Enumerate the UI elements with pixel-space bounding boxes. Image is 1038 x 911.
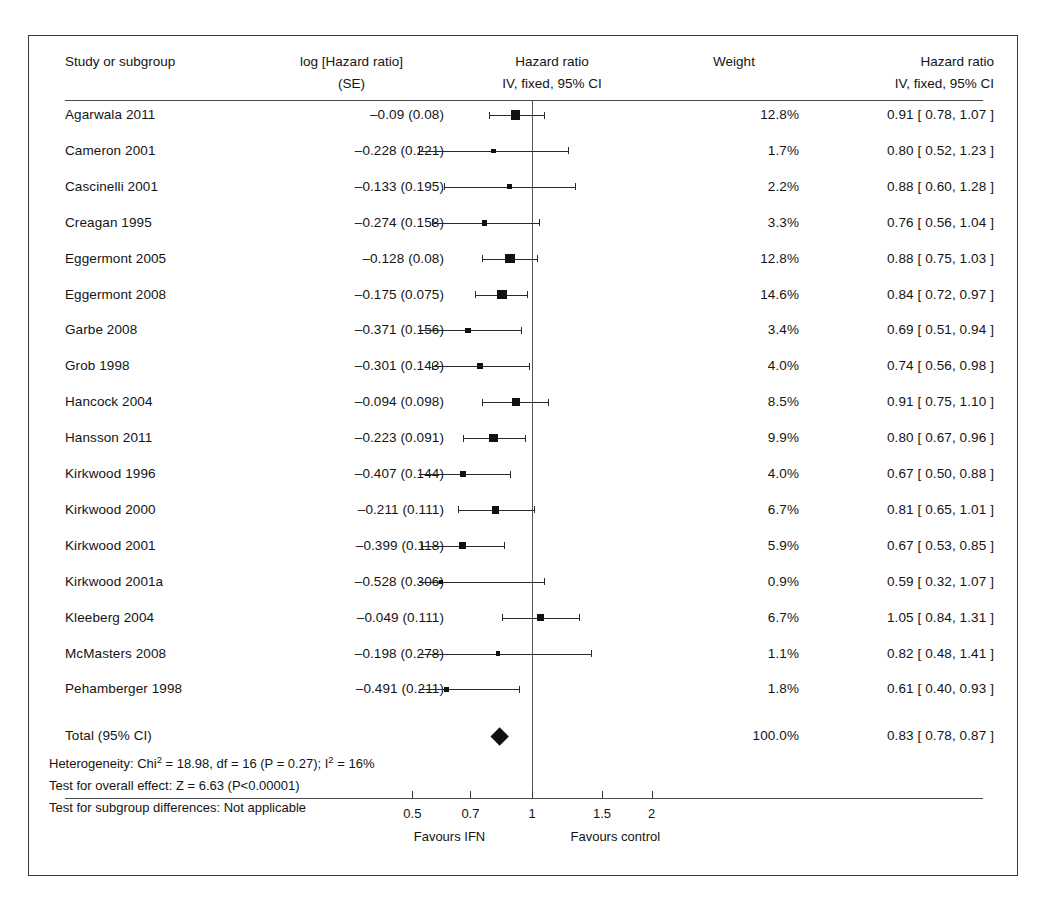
column-header-plot-hazard-ratio: Hazard ratio [447, 53, 657, 71]
study-label: Hancock 2004 [65, 394, 153, 410]
confidence-interval-line [444, 187, 575, 188]
ci-lower-cap [482, 255, 483, 262]
ci-upper-cap [537, 255, 538, 262]
study-label: Kirkwood 1996 [65, 466, 156, 482]
study-weight: 2.2% [669, 179, 799, 195]
log-hazard-se: –0.128 (0.08) [259, 251, 444, 267]
heterogeneity-text: Heterogeneity: Chi2 = 18.98, df = 16 (P … [49, 756, 374, 772]
study-label: Hansson 2011 [65, 430, 152, 446]
ci-lower-cap [458, 506, 459, 513]
confidence-interval-line [432, 223, 539, 224]
study-hazard-ratio: 0.88 [ 0.60, 1.28 ] [829, 179, 994, 195]
study-hazard-ratio: 0.81 [ 0.65, 1.01 ] [829, 502, 994, 518]
study-label: Kirkwood 2001a [65, 574, 163, 590]
effect-size-marker [460, 471, 466, 477]
axis-tick [602, 791, 603, 798]
log-hazard-se: –0.198 (0.278) [259, 646, 444, 662]
log-hazard-se: –0.528 (0.306) [259, 574, 444, 590]
effect-size-marker [459, 542, 466, 549]
ci-lower-cap [463, 435, 464, 442]
study-label: Eggermont 2005 [65, 251, 166, 267]
axis-baseline [65, 798, 983, 799]
ci-upper-cap [510, 471, 511, 478]
log-hazard-se: –0.133 (0.195) [259, 179, 444, 195]
study-weight: 3.4% [669, 322, 799, 338]
study-weight: 9.9% [669, 430, 799, 446]
study-weight: 6.7% [669, 610, 799, 626]
effect-size-marker [482, 220, 488, 226]
log-hazard-se: –0.223 (0.091) [259, 430, 444, 446]
study-label: Kleeberg 2004 [65, 610, 154, 626]
study-hazard-ratio: 0.59 [ 0.32, 1.07 ] [829, 574, 994, 590]
total-label: Total (95% CI) [65, 728, 152, 744]
ci-upper-cap [575, 183, 576, 190]
study-label: Kirkwood 2000 [65, 502, 156, 518]
effect-size-marker [489, 434, 497, 442]
axis-tick-label: 2 [648, 806, 655, 821]
study-label: Eggermont 2008 [65, 287, 166, 303]
confidence-interval-line [463, 438, 525, 439]
study-label: Cameron 2001 [65, 143, 156, 159]
confidence-interval-line [419, 654, 591, 655]
ci-lower-cap [475, 291, 476, 298]
ci-lower-cap [489, 112, 490, 119]
confidence-interval-line [458, 510, 534, 511]
study-hazard-ratio: 0.67 [ 0.53, 0.85 ] [829, 538, 994, 554]
study-hazard-ratio: 0.91 [ 0.78, 1.07 ] [829, 107, 994, 123]
effect-size-marker [491, 149, 496, 154]
header-divider [65, 100, 983, 101]
study-weight: 12.8% [669, 107, 799, 123]
ci-upper-cap [527, 291, 528, 298]
axis-tick [470, 791, 471, 798]
study-label: Grob 1998 [65, 358, 130, 374]
column-header-hazard-ratio: Hazard ratio [829, 53, 994, 71]
study-hazard-ratio: 0.61 [ 0.40, 0.93 ] [829, 681, 994, 697]
axis-tick [532, 791, 533, 798]
log-hazard-se: –0.228 (0.221) [259, 143, 444, 159]
ci-upper-cap [568, 147, 569, 154]
effect-size-marker [465, 328, 471, 334]
study-label: Cascinelli 2001 [65, 179, 158, 195]
ci-upper-cap [519, 686, 520, 693]
plot-area [29, 36, 1019, 877]
confidence-interval-line [482, 402, 548, 403]
ci-upper-cap [548, 399, 549, 406]
study-hazard-ratio: 0.82 [ 0.48, 1.41 ] [829, 646, 994, 662]
ci-upper-cap [534, 506, 535, 513]
confidence-interval-line [432, 366, 529, 367]
axis-tick-label: 0.7 [461, 806, 479, 821]
effect-size-marker [512, 398, 520, 406]
log-hazard-se: –0.407 (0.144) [259, 466, 444, 482]
confidence-interval-line [502, 618, 579, 619]
ci-upper-cap [525, 435, 526, 442]
effect-size-marker [511, 110, 520, 119]
study-weight: 12.8% [669, 251, 799, 267]
effect-size-marker [477, 363, 483, 369]
study-hazard-ratio: 0.76 [ 0.56, 1.04 ] [829, 215, 994, 231]
ci-upper-cap [504, 542, 505, 549]
effect-size-marker [537, 614, 544, 621]
ci-upper-cap [544, 578, 545, 585]
log-hazard-se: –0.274 (0.158) [259, 215, 444, 231]
study-weight: 5.9% [669, 538, 799, 554]
study-label: Agarwala 2011 [65, 107, 155, 123]
ci-upper-cap [539, 219, 540, 226]
effect-size-marker [505, 254, 514, 263]
column-header-log-hazard-ratio: log [Hazard ratio] [259, 53, 444, 71]
column-header-plot-method: IV, fixed, 95% CI [447, 75, 657, 93]
total-weight: 100.0% [669, 728, 799, 744]
ci-upper-cap [544, 112, 545, 119]
log-hazard-se: –0.211 (0.111) [259, 502, 444, 518]
favours-left-label: Favours IFN [414, 829, 486, 844]
study-weight: 1.8% [669, 681, 799, 697]
confidence-interval-line [475, 295, 526, 296]
confidence-interval-line [489, 115, 544, 116]
study-weight: 3.3% [669, 215, 799, 231]
column-header-hazard-ratio-method: IV, fixed, 95% CI [829, 75, 994, 93]
column-header-log-se: (SE) [259, 75, 444, 93]
study-label: Garbe 2008 [65, 322, 137, 338]
study-hazard-ratio: 0.69 [ 0.51, 0.94 ] [829, 322, 994, 338]
log-hazard-se: –0.094 (0.098) [259, 394, 444, 410]
log-hazard-se: –0.049 (0.111) [259, 610, 444, 626]
study-hazard-ratio: 0.67 [ 0.50, 0.88 ] [829, 466, 994, 482]
